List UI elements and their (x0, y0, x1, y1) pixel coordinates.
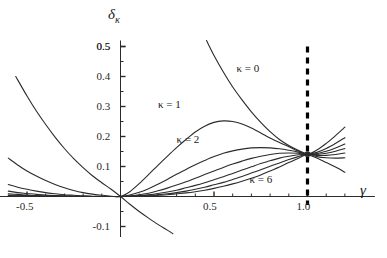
curve-line (8, 138, 345, 197)
crossing-point-marker (304, 152, 311, 157)
y-tick-label: 0.1 (97, 160, 111, 172)
y-tick-label: -0.1 (93, 220, 110, 232)
x-tick-label: -0.5 (16, 200, 33, 212)
chart-figure: δκ γ -0.50.51.0-0.10.10.20.30.40.50.5 κ … (0, 0, 387, 258)
x-tick-label: 1.0 (297, 200, 311, 212)
y-tick-label: 0.2 (97, 130, 111, 142)
crossing-dot (304, 152, 311, 157)
plot-canvas (0, 0, 387, 258)
curve-line (8, 149, 345, 197)
curve-annotation: κ = 2 (177, 133, 200, 145)
y-tick-label: 0.3 (97, 100, 111, 112)
y-axis-label-subscript: κ (115, 14, 120, 25)
y-axis-label: δκ (108, 6, 120, 25)
curve-line (16, 77, 173, 234)
curve-annotation: κ = 6 (250, 173, 273, 185)
y-axis-label-base: δ (108, 6, 115, 22)
curve-annotation: κ = 0 (236, 62, 259, 74)
x-tick-label: 0.5 (203, 200, 217, 212)
curve-annotation: κ = 1 (158, 98, 181, 110)
y-tick-label: 0.5 (97, 40, 111, 52)
y-tick-label: 0.4 (97, 70, 111, 82)
x-axis-label: γ (360, 182, 366, 199)
